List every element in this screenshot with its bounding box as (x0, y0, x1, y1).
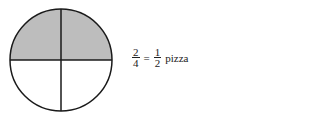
right-denominator: 2 (155, 58, 161, 68)
fraction-left: 2 4 (132, 47, 140, 68)
equals-sign: = (144, 52, 150, 64)
left-denominator: 4 (133, 58, 139, 68)
fraction-equation: 2 4 = 1 2 pizza (132, 47, 188, 68)
fraction-right: 1 2 (154, 47, 162, 68)
unit-label: pizza (165, 52, 188, 64)
